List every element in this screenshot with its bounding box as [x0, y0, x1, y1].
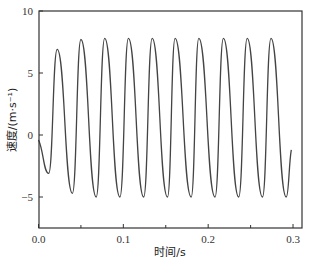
axis-tick-labels: 0.00.10.20.31050−5 [21, 5, 300, 245]
y-tick-label: −5 [21, 191, 33, 203]
y-tick-label: 10 [22, 5, 34, 17]
y-tick-label: 5 [28, 67, 34, 79]
x-tick-label: 0.2 [201, 233, 215, 245]
y-axis-label: 速度/(m·s⁻¹) [5, 88, 19, 152]
x-tick-label: 0.3 [286, 233, 300, 245]
x-tick-label: 0.0 [32, 233, 46, 245]
plot-frame [39, 11, 302, 228]
y-tick-label: 0 [28, 129, 34, 141]
x-axis-label: 时间/s [154, 246, 186, 259]
velocity-curve [39, 38, 292, 197]
velocity-time-chart: 0.00.10.20.31050−5 时间/s 速度/(m·s⁻¹) [0, 0, 310, 265]
x-tick-label: 0.1 [116, 233, 130, 245]
